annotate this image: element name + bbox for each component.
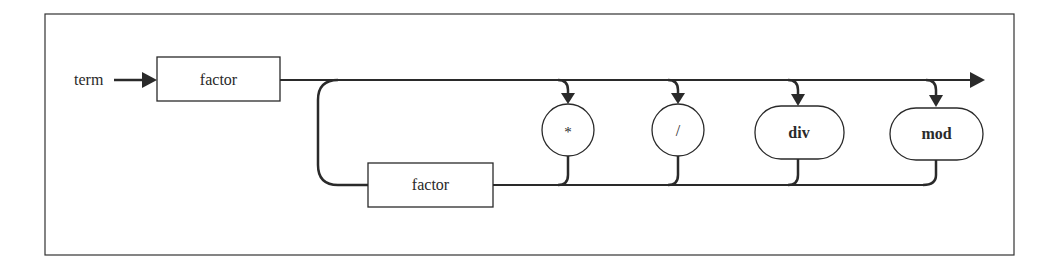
branch-div-out [788, 159, 798, 185]
entry-arrowhead-icon [142, 72, 157, 88]
arrowhead-divide-icon [671, 93, 685, 104]
op-div-label: div [788, 124, 809, 141]
factor-loop-label: factor [412, 176, 450, 193]
op-multiply-label: * [564, 124, 572, 140]
diagram-frame [45, 14, 1014, 255]
op-divide-label: / [676, 122, 681, 139]
op-mod-label: mod [921, 125, 951, 142]
entry-label: term [74, 71, 104, 88]
factor-first-label: factor [200, 71, 238, 88]
branch-multiply-out [558, 156, 568, 185]
branch-divide-out [668, 156, 678, 185]
arrowhead-mod-icon [929, 95, 943, 107]
syntax-diagram: term factor factor * / div mod [0, 0, 1060, 270]
arrowhead-div-icon [791, 94, 805, 106]
branch-mod-out [923, 160, 936, 185]
exit-arrowhead-icon [970, 72, 985, 88]
arrowhead-multiply-icon [561, 93, 575, 104]
loop-back-path [318, 80, 368, 185]
